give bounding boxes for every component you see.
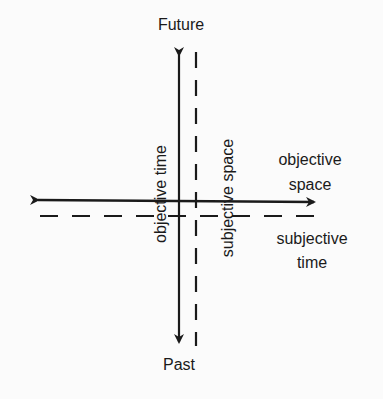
objective-space-axis <box>38 200 314 202</box>
objective-space-label-line2: space <box>289 176 332 193</box>
subjective-time-label-line2: time <box>297 254 327 271</box>
subjective-space-label: subjective space <box>219 139 236 257</box>
future-label: Future <box>158 16 204 33</box>
time-space-diagram: Future Past objective time subjective sp… <box>0 0 383 399</box>
objective-space-label-line1: objective <box>278 151 341 168</box>
objective-time-label: objective time <box>152 145 169 243</box>
diagram-canvas: Future Past objective time subjective sp… <box>0 0 383 399</box>
subjective-time-label-line1: subjective <box>276 230 347 247</box>
past-label: Past <box>163 356 196 373</box>
